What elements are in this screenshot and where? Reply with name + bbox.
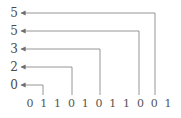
binary-digit-0: 0 (27, 97, 34, 110)
binary-digit-9: 0 (151, 97, 158, 110)
binary-digit-4: 1 (82, 97, 89, 110)
arrowhead-row-0 (21, 11, 26, 16)
row-labels-group: 55320 (10, 6, 18, 92)
binary-digit-3: 0 (68, 97, 75, 110)
pointer-diagram-svg: 55320 01101011001 (0, 0, 181, 118)
binary-digit-2: 1 (54, 97, 61, 110)
connector-line-0 (21, 13, 155, 95)
arrowhead-row-3 (21, 65, 26, 70)
row-label-4: 0 (10, 78, 18, 92)
binary-digits-group: 01101011001 (27, 97, 172, 110)
binary-digit-6: 1 (109, 97, 116, 110)
binary-digit-1: 1 (40, 97, 47, 110)
arrowheads-group (21, 11, 26, 88)
connector-line-3 (21, 67, 72, 95)
binary-digit-10: 1 (165, 97, 172, 110)
diagram-canvas: 55320 01101011001 (0, 0, 181, 118)
row-label-1: 5 (10, 24, 18, 38)
arrowhead-row-2 (21, 47, 26, 52)
binary-digit-5: 0 (96, 97, 103, 110)
connector-line-2 (21, 49, 100, 95)
arrowhead-row-1 (21, 29, 26, 34)
connectors-group (21, 13, 155, 95)
row-label-0: 5 (10, 6, 18, 20)
binary-digit-7: 1 (123, 97, 130, 110)
row-label-3: 2 (10, 60, 18, 74)
row-label-2: 3 (10, 42, 18, 56)
binary-digit-8: 0 (137, 97, 144, 110)
arrowhead-row-4 (21, 83, 26, 88)
